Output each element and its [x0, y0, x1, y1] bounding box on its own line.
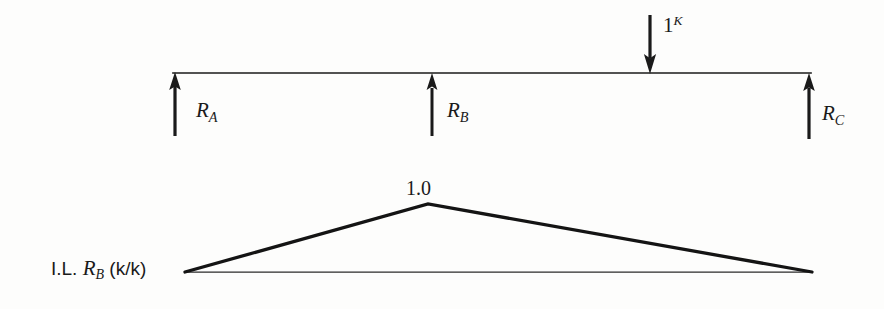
figure-canvas: RA RB RC 1K 1.0 I.L. RB (k/k) — [0, 0, 884, 309]
il-ordinate-line — [185, 204, 812, 272]
unit-load-label-value: 1 — [663, 13, 674, 37]
reaction-label-b: RB — [447, 100, 469, 124]
unit-load-label: 1K — [663, 14, 682, 36]
influence-line-diagram — [185, 204, 812, 272]
reaction-arrow-a — [169, 72, 181, 136]
reaction-label-a-subscript: A — [209, 109, 218, 125]
unit-load-arrow — [644, 15, 656, 74]
il-label-units: (k/k) — [104, 258, 146, 279]
reaction-label-c-subscript: C — [835, 112, 845, 128]
il-label-symbol: R — [83, 256, 96, 280]
unit-load-label-superscript: K — [674, 13, 683, 28]
reaction-label-a-symbol: R — [196, 98, 209, 122]
reaction-arrow-c — [803, 73, 815, 139]
reaction-arrow-b — [427, 73, 438, 136]
beam-diagram — [169, 15, 815, 139]
reaction-label-b-subscript: B — [460, 109, 469, 125]
reaction-label-c-symbol: R — [822, 101, 835, 125]
il-peak-value-label: 1.0 — [406, 178, 431, 198]
reaction-label-a: RA — [196, 100, 218, 124]
il-label-prefix: I.L. — [51, 258, 83, 279]
reaction-label-b-symbol: R — [447, 98, 460, 122]
il-label-subscript: B — [96, 267, 105, 282]
reaction-label-c: RC — [822, 103, 844, 127]
influence-line-label: I.L. RB (k/k) — [51, 258, 146, 282]
